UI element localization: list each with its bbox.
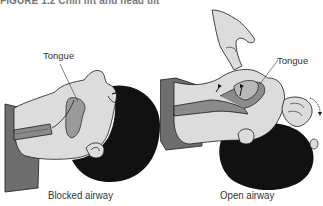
tongue-callout-label: Tongue (277, 55, 308, 66)
open-airway-illustration (160, 0, 323, 206)
blocked-airway-title: Blocked airway (48, 189, 113, 201)
tongue-callout-label: Tongue (43, 50, 74, 61)
open-airway-title: Open airway (220, 189, 274, 201)
blocked-airway-illustration (0, 0, 160, 206)
open-airway-panel: Tongue Open airway (160, 0, 323, 206)
blocked-airway-panel: Tongue Blocked airway (0, 0, 160, 206)
